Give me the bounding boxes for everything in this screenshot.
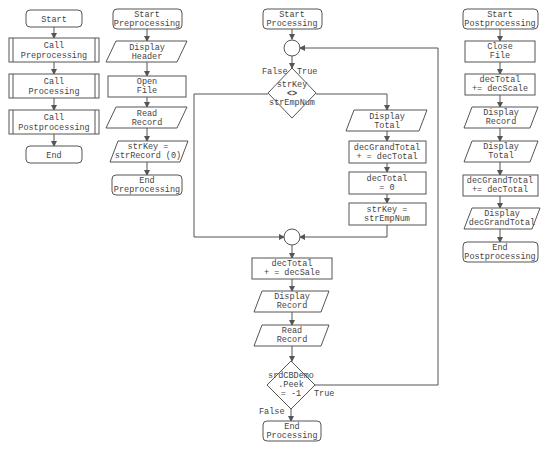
postprocessing-flow: Start Postprocessing Close File decTotal… xyxy=(463,9,540,262)
proc-connector-bottom xyxy=(284,229,300,245)
svg-text:True: True xyxy=(297,67,317,77)
main-call-proc: Call Processing xyxy=(9,74,99,98)
svg-text:Preprocessing: Preprocessing xyxy=(114,185,180,195)
svg-text:Call: Call xyxy=(44,41,64,51)
svg-text:Postprocessing: Postprocessing xyxy=(18,123,89,133)
svg-text:+ = decTotal: + = decTotal xyxy=(356,152,417,162)
processing-flow: Start Processing False True strKey <> st… xyxy=(194,9,438,441)
preprocessing-flow: Start Preprocessing Display Header Open … xyxy=(106,9,188,195)
svg-text:= -1: = -1 xyxy=(281,389,301,399)
svg-text:Postprocessing: Postprocessing xyxy=(464,252,535,262)
svg-text:Call: Call xyxy=(44,113,64,123)
svg-text:strEmpNum: strEmpNum xyxy=(364,214,410,224)
svg-text:Preprocessing: Preprocessing xyxy=(21,51,87,61)
main-flow: Start Call Preprocessing Call Processing… xyxy=(9,10,99,163)
svg-text:File: File xyxy=(137,86,157,96)
main-call-pre: Call Preprocessing xyxy=(9,38,99,62)
svg-text:False: False xyxy=(259,407,285,417)
svg-text:decGrandTotal: decGrandTotal xyxy=(469,218,535,228)
svg-text:Total: Total xyxy=(374,121,400,131)
svg-text:Processing: Processing xyxy=(266,19,317,29)
svg-text:+= decScale: += decScale xyxy=(472,84,528,94)
flowchart-canvas: Start Call Preprocessing Call Processing… xyxy=(0,0,548,452)
main-call-post: Call Postprocessing xyxy=(9,110,99,134)
svg-text:Record: Record xyxy=(486,117,517,127)
proc-connector-top xyxy=(284,40,300,56)
svg-text:+= decTotal: += decTotal xyxy=(472,185,528,195)
svg-text:Postprocessing: Postprocessing xyxy=(464,19,535,29)
svg-text:strEmpNum: strEmpNum xyxy=(269,98,315,108)
svg-text:Record: Record xyxy=(277,335,308,345)
svg-text:True: True xyxy=(314,389,334,399)
svg-text:Record: Record xyxy=(277,301,308,311)
svg-text:Call: Call xyxy=(44,77,64,87)
svg-text:+ = decSale: + = decSale xyxy=(264,268,320,278)
svg-text:File: File xyxy=(490,51,510,61)
svg-text:Processing: Processing xyxy=(266,431,317,441)
svg-text:= 0: = 0 xyxy=(379,183,394,193)
svg-text:Total: Total xyxy=(488,151,514,161)
svg-text:Header: Header xyxy=(132,52,163,62)
svg-text:strRecord (0): strRecord (0) xyxy=(115,151,181,161)
svg-text:False: False xyxy=(262,67,288,77)
main-end-label: End xyxy=(46,151,61,161)
svg-text:Preprocessing: Preprocessing xyxy=(114,19,180,29)
main-start-label: Start xyxy=(41,15,67,25)
svg-text:Processing: Processing xyxy=(28,87,79,97)
svg-text:Record: Record xyxy=(132,118,163,128)
